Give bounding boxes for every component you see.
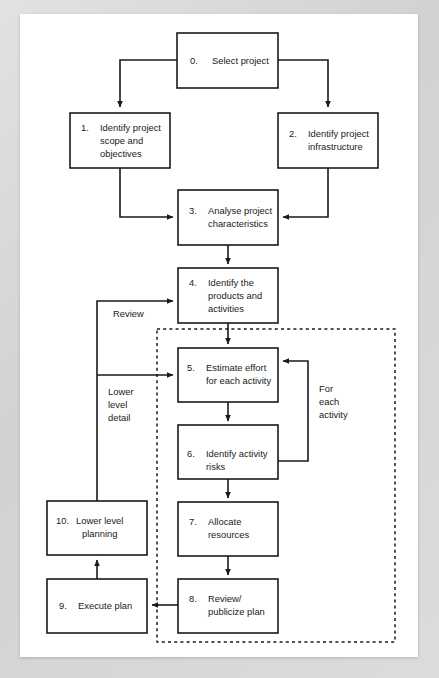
annotation-text-line: Review — [113, 308, 144, 319]
node-number: 6. — [187, 448, 195, 459]
node-label-line: Identify activity — [206, 448, 268, 459]
annotation-review: Review — [113, 308, 144, 319]
node-label-line: planning — [82, 528, 117, 539]
node-label-line: Identify the — [208, 277, 254, 288]
page-frame: 0. Select project 1. Identify project sc… — [0, 0, 439, 678]
diagram-sheet: 0. Select project 1. Identify project sc… — [20, 14, 418, 657]
connector-identify-risks-back-to-estimate-effort — [278, 361, 308, 461]
annotation-text-line: detail — [108, 412, 130, 423]
node-number: 9. — [59, 600, 67, 611]
node-label-line: objectives — [100, 148, 142, 159]
node-label-line: publicize plan — [208, 606, 265, 617]
node-number: 3. — [189, 205, 197, 216]
node-label-line: activities — [208, 303, 244, 314]
annotation-text-line: For — [319, 383, 333, 394]
node-label-line: resources — [208, 529, 249, 540]
node-label-line: Identify project — [100, 122, 161, 133]
annotation-text-line: level — [108, 399, 127, 410]
node-label-line: risks — [206, 461, 226, 472]
connector-identify-infrastructure-to-analyse — [283, 168, 328, 217]
node-allocate-resources[interactable]: 7. Allocate resources — [178, 502, 278, 556]
node-estimate-effort-for-each-activity[interactable]: 5. Estimate effort for each activity — [178, 348, 278, 402]
node-number: 7. — [189, 516, 197, 527]
node-label-line: characteristics — [208, 218, 268, 229]
node-number: 1. — [81, 122, 89, 133]
node-number: 5. — [187, 362, 195, 373]
node-label-line: Lower level — [76, 515, 123, 526]
node-label-line: for each activity — [206, 375, 271, 386]
node-lower-level-planning[interactable]: 10. Lower level planning — [47, 501, 147, 555]
node-label-line: Allocate — [208, 516, 241, 527]
annotation-lower-level-detail: Lower level detail — [108, 386, 134, 423]
node-label-line: Execute plan — [78, 600, 132, 611]
connector-select-project-to-identify-scope — [120, 60, 177, 107]
annotation-text-line: each — [319, 396, 339, 407]
connector-identify-scope-to-analyse — [120, 168, 173, 217]
flowchart-svg: 0. Select project 1. Identify project sc… — [20, 14, 418, 657]
node-label-line: Analyse project — [208, 205, 272, 216]
node-identify-project-scope-and-objectives[interactable]: 1. Identify project scope and objectives — [70, 113, 170, 168]
node-label-line: Review/ — [208, 593, 242, 604]
annotation-text-line: activity — [319, 409, 348, 420]
node-label-line: Select project — [212, 55, 269, 66]
node-label-line: scope and — [100, 135, 143, 146]
node-identify-the-products-and-activities[interactable]: 4. Identify the products and activities — [178, 268, 278, 323]
annotation-for-each-activity: For each activity — [319, 383, 348, 420]
node-identify-activity-risks[interactable]: 6. Identify activity risks — [178, 425, 278, 479]
node-label-line: products and — [208, 290, 262, 301]
node-select-project[interactable]: 0. Select project — [177, 33, 278, 88]
node-label-line: Estimate effort — [206, 362, 267, 373]
node-number: 8. — [189, 593, 197, 604]
node-label-line: Identify project — [308, 128, 369, 139]
annotation-text-line: Lower — [108, 386, 134, 397]
node-number: 10. — [56, 515, 69, 526]
node-number: 2. — [289, 128, 297, 139]
node-review-publicize-plan[interactable]: 8. Review/ publicize plan — [178, 579, 278, 633]
node-label-line: infrastructure — [308, 141, 363, 152]
node-analyse-project-characteristics[interactable]: 3. Analyse project characteristics — [178, 190, 278, 245]
node-execute-plan[interactable]: 9. Execute plan — [47, 579, 147, 633]
node-number: 4. — [189, 277, 197, 288]
node-number: 0. — [190, 55, 198, 66]
node-identify-project-infrastructure[interactable]: 2. Identify project infrastructure — [278, 113, 378, 168]
connector-select-project-to-identify-infrastructure — [278, 60, 328, 107]
